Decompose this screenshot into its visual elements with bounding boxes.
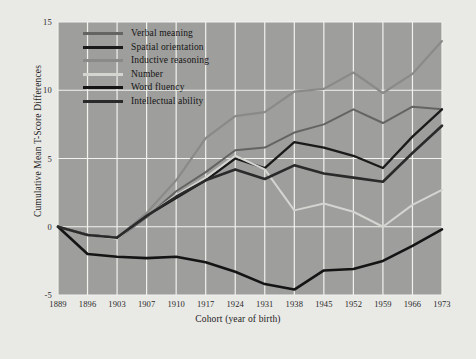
y-tick-label: 15 bbox=[28, 17, 52, 27]
series-line-intellectual-ability bbox=[58, 126, 442, 238]
legend-item[interactable]: Spatial orientation bbox=[83, 42, 209, 53]
x-tick-label: 1907 bbox=[132, 299, 162, 309]
chart-legend: Verbal meaningSpatial orientationInducti… bbox=[83, 28, 209, 107]
legend-item[interactable]: Word fluency bbox=[83, 82, 209, 93]
x-tick-label: 1903 bbox=[102, 299, 132, 309]
legend-label: Intellectual ability bbox=[131, 96, 203, 107]
legend-swatch-icon bbox=[83, 73, 123, 76]
x-tick-label: 1924 bbox=[220, 299, 250, 309]
x-tick-label: 1959 bbox=[368, 299, 398, 309]
legend-swatch-icon bbox=[83, 59, 123, 62]
legend-item[interactable]: Inductive reasoning bbox=[83, 55, 209, 66]
x-tick-label: 1952 bbox=[338, 299, 368, 309]
legend-item[interactable]: Intellectual ability bbox=[83, 96, 209, 107]
legend-swatch-icon bbox=[83, 100, 123, 103]
x-tick-label: 1896 bbox=[73, 299, 103, 309]
legend-item[interactable]: Number bbox=[83, 69, 209, 80]
legend-item[interactable]: Verbal meaning bbox=[83, 28, 209, 39]
x-tick-label: 1945 bbox=[309, 299, 339, 309]
legend-swatch-icon bbox=[83, 46, 123, 49]
y-axis-label: Cumulative Mean T-Score Differences bbox=[33, 41, 43, 241]
x-tick-label: 1889 bbox=[43, 299, 73, 309]
legend-swatch-icon bbox=[83, 32, 123, 35]
legend-swatch-icon bbox=[83, 86, 123, 89]
legend-label: Number bbox=[131, 69, 163, 80]
x-tick-label: 1938 bbox=[279, 299, 309, 309]
chart-figure: 151050-5 1889189619031907191019171924193… bbox=[0, 0, 476, 359]
series-line-word-fluency bbox=[58, 227, 442, 290]
legend-label: Inductive reasoning bbox=[131, 55, 209, 66]
x-tick-label: 1910 bbox=[161, 299, 191, 309]
x-tick-label: 1966 bbox=[397, 299, 427, 309]
x-tick-label: 1931 bbox=[250, 299, 280, 309]
legend-label: Spatial orientation bbox=[131, 42, 204, 53]
legend-label: Word fluency bbox=[131, 82, 185, 93]
x-axis-label: Cohort (year of birth) bbox=[0, 314, 476, 324]
series-line-verbal-meaning bbox=[58, 107, 442, 239]
x-tick-label: 1973 bbox=[427, 299, 457, 309]
x-tick-label: 1917 bbox=[191, 299, 221, 309]
legend-label: Verbal meaning bbox=[131, 28, 193, 39]
